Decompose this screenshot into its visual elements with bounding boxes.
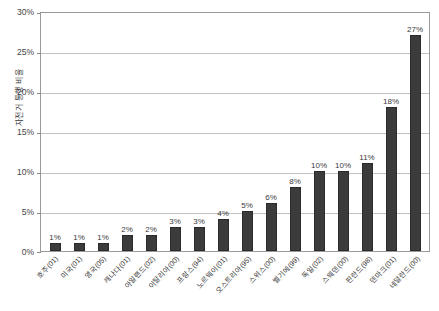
bar [170,227,181,251]
y-axis-tick-label: 10% [4,167,34,177]
bar-value-label: 2% [121,226,133,234]
bar [362,163,373,251]
bar [122,235,133,251]
bar-slot: 2% [115,13,139,251]
bar-value-label: 6% [265,194,277,202]
bar [242,211,253,251]
y-axis-tick-label: 30% [4,7,34,17]
bar [146,235,157,251]
bar-value-label: 2% [145,226,157,234]
bar [98,243,109,251]
bar-slot: 10% [307,13,331,251]
y-axis-tick-label: 15% [4,127,34,137]
bar [218,219,229,251]
y-axis-tick-label: 5% [4,207,34,217]
bar-value-label: 1% [97,234,109,242]
bar-slot: 10% [331,13,355,251]
x-label-slot: 네덜란드(00) [404,254,428,311]
x-axis-category-label: 호주(01) [36,255,60,280]
bar [314,171,325,251]
bar-slot: 11% [355,13,379,251]
bar-slot: 1% [91,13,115,251]
bar-slot: 27% [403,13,427,251]
bar-value-label: 3% [193,218,205,226]
bar-value-label: 11% [359,154,374,162]
y-axis-tick-labels: 0%5%10%15%20%25%30% [0,0,34,311]
bar [338,171,349,251]
x-label-slot: 호주(01) [42,254,66,311]
bar [386,107,397,251]
bar-series: 1%1%1%2%2%3%3%4%5%6%8%10%10%11%18%27% [41,13,429,251]
bar-slot: 3% [187,13,211,251]
bar [266,203,277,251]
y-axis-tick-label: 0% [4,247,34,257]
bar-slot: 1% [67,13,91,251]
bar-slot: 18% [379,13,403,251]
x-label-slot: 미국(01) [66,254,90,311]
bar-slot: 2% [139,13,163,251]
bar-value-label: 10% [311,162,327,170]
bar-value-label: 5% [241,202,253,210]
bar-value-label: 4% [217,210,229,218]
bar-slot: 6% [259,13,283,251]
bar-value-label: 1% [49,234,61,242]
bar-value-label: 27% [407,26,423,34]
y-axis-tick-label: 20% [4,87,34,97]
bar-value-label: 8% [289,178,301,186]
bar [410,35,421,251]
bar-value-label: 10% [335,162,351,170]
plot-area: 1%1%1%2%2%3%3%4%5%6%8%10%10%11%18%27% [40,12,430,252]
bar-slot: 4% [211,13,235,251]
y-axis-tickmark [37,252,41,253]
x-label-slot: 벨기에(99) [283,254,307,311]
bar-slot: 5% [235,13,259,251]
bar-value-label: 1% [73,234,85,242]
bar [50,243,61,251]
bar-slot: 1% [43,13,67,251]
bar-slot: 8% [283,13,307,251]
bar-value-label: 18% [383,98,399,106]
bar [194,227,205,251]
x-axis-category-labels: 호주(01)미국(01)영국(05)캐나다(01)아일랜드(02)이탈리아(00… [40,254,430,311]
bar-value-label: 3% [169,218,181,226]
bicycle-mode-share-bar-chart: 자전거 통행 비율 0%5%10%15%20%25%30% 1%1%1%2%2%… [0,0,439,311]
bar [290,187,301,251]
y-axis-tick-label: 25% [4,47,34,57]
bar-slot: 3% [163,13,187,251]
bar [74,243,85,251]
